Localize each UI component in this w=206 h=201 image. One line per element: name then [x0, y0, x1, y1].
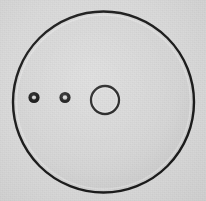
- drawing-canvas: [0, 0, 206, 201]
- hole-middle-core: [63, 95, 68, 100]
- main-disc-body: [13, 12, 194, 193]
- disc-diagram: [0, 0, 206, 201]
- hole-left-core: [32, 95, 36, 99]
